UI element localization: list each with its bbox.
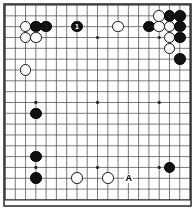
black-stone [30, 151, 42, 163]
black-stone [174, 53, 186, 65]
white-stone [102, 172, 114, 184]
black-stone [30, 172, 42, 184]
black-stone [71, 21, 83, 33]
black-stone [174, 10, 186, 22]
black-stone [30, 108, 42, 120]
white-stone [20, 64, 32, 76]
go-board-diagram: 1 A [0, 0, 195, 213]
white-stone [71, 172, 83, 184]
board-point-label-a: A [124, 174, 133, 183]
white-stone [30, 32, 42, 44]
black-stone [174, 32, 186, 44]
black-stone [174, 21, 186, 33]
